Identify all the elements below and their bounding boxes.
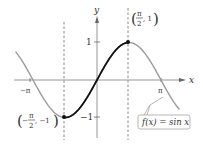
tick-label-neg-pi: −π: [20, 87, 31, 95]
function-label: f(x) = sin x: [141, 117, 189, 127]
tick-label-one: 1: [86, 37, 92, 47]
max-num: π: [137, 10, 142, 18]
paren-close: ): [53, 112, 59, 130]
tick-label-neg-one: −1: [80, 112, 93, 122]
min-den: 2: [29, 122, 33, 130]
tick-label-pi: π: [158, 87, 163, 95]
callout-pointer: [144, 105, 150, 115]
y-axis-arrow-icon: [95, 16, 99, 23]
callout-line: [150, 97, 163, 105]
min-y: , −1: [35, 117, 50, 125]
paren-close: ): [153, 10, 159, 28]
y-axis-label: y: [93, 5, 100, 15]
paren-open: (: [131, 10, 137, 28]
max-y: , 1: [143, 15, 152, 23]
x-axis-label: x: [189, 75, 194, 85]
point-max: [126, 40, 130, 44]
function-annotation: f(x) = sin x: [138, 97, 190, 129]
sine-graph: y x −π π 1 −1 ( π 2 , 1 ) ( − π 2 , −1 )…: [0, 0, 203, 144]
point-min: [62, 115, 66, 119]
max-den: 2: [137, 20, 141, 28]
min-num: π: [29, 112, 34, 120]
label-min-point: ( − π 2 , −1 ): [17, 112, 59, 130]
min-sign: −: [22, 117, 28, 125]
label-max-point: ( π 2 , 1 ): [131, 10, 159, 28]
x-axis-arrow-icon: [179, 78, 186, 82]
